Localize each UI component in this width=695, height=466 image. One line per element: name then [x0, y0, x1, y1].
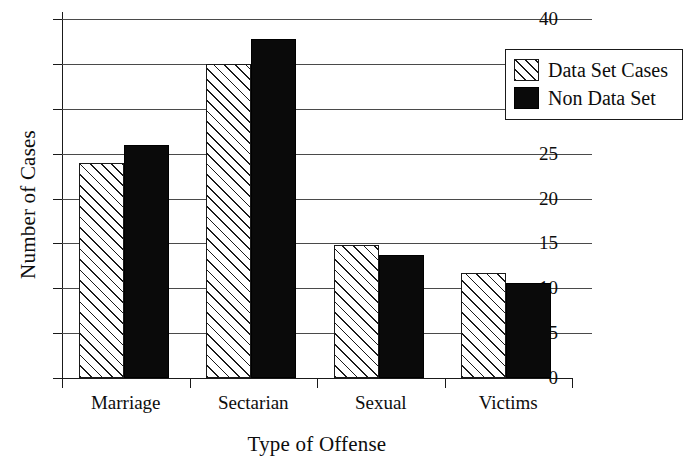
y-tick-mark: [53, 199, 62, 200]
legend-swatch-data-set-cases: [514, 59, 539, 81]
bar-sectarian-non-data-set: [251, 39, 296, 378]
bar-sexual-non-data-set: [379, 255, 424, 378]
y-tick-mark: [53, 378, 62, 379]
bars: MarriageSectarianSexualVictims: [62, 19, 572, 378]
legend: Data Set CasesNon Data Set: [505, 49, 683, 120]
bar-marriage-non-data-set: [124, 145, 169, 378]
legend-item: Data Set Cases: [514, 56, 674, 84]
y-tick-mark: [53, 243, 62, 244]
legend-swatch-non-data-set: [514, 87, 539, 109]
bar-sectarian-data-set-cases: [206, 64, 251, 378]
x-tick-mark: [190, 378, 191, 388]
x-tick-mark: [62, 378, 63, 388]
bar-victims-data-set-cases: [461, 273, 506, 378]
plot-area: 0510152025303540 MarriageSectarianSexual…: [62, 19, 572, 378]
legend-label: Non Data Set: [548, 87, 656, 109]
x-axis-title: Type of Offense: [62, 432, 572, 457]
bar-chart: Number of Cases Type of Offense 05101520…: [0, 0, 695, 466]
bar-sexual-data-set-cases: [334, 245, 379, 378]
x-tick-label-victims: Victims: [428, 392, 588, 414]
y-tick-mark: [53, 19, 62, 20]
y-tick-mark: [53, 333, 62, 334]
y-tick-mark: [53, 64, 62, 65]
y-axis-title: Number of Cases: [16, 85, 41, 325]
x-tick-mark: [445, 378, 446, 388]
legend-label: Data Set Cases: [548, 59, 668, 81]
y-tick-mark: [53, 109, 62, 110]
bar-marriage-data-set-cases: [79, 163, 124, 378]
x-tick-mark: [572, 378, 573, 388]
bar-victims-non-data-set: [506, 283, 551, 378]
y-tick-mark: [53, 154, 62, 155]
legend-item: Non Data Set: [514, 84, 674, 112]
x-tick-mark: [317, 378, 318, 388]
y-tick-mark: [53, 288, 62, 289]
